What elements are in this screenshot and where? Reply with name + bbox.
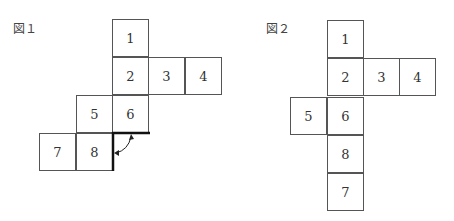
rotation-arrow-icon	[0, 0, 454, 221]
